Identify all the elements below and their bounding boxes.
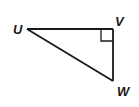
vertex-label-u: U — [13, 22, 23, 37]
vertex-label-v: V — [115, 14, 125, 29]
vertex-label-w: W — [117, 84, 131, 99]
triangle-diagram: U V W — [0, 0, 139, 107]
right-angle-marker — [101, 29, 113, 41]
triangle-uvw — [27, 29, 113, 81]
side-uw — [27, 29, 113, 81]
